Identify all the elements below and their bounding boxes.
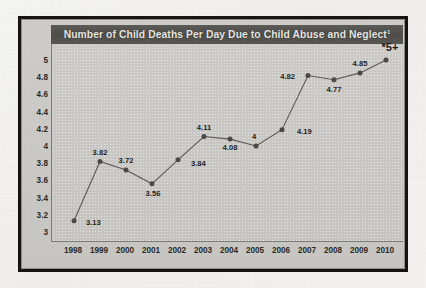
- y-axis-tick-label: 3.4: [37, 193, 48, 202]
- data-point-label: 4.11: [197, 123, 212, 132]
- data-point-marker: [150, 181, 155, 186]
- data-point-marker: [202, 134, 207, 139]
- scanned-page: Number of Child Deaths Per Day Due to Ch…: [0, 0, 426, 288]
- data-point-label: 4.85: [353, 59, 369, 68]
- x-axis-tick-label: 2009: [350, 246, 368, 255]
- x-axis-tick-label: 2002: [168, 246, 186, 255]
- data-point-marker: [254, 144, 259, 149]
- x-axis-tick-label: 2003: [194, 246, 212, 255]
- x-axis-tick-label: 2008: [324, 246, 342, 255]
- data-point-marker: [228, 137, 233, 142]
- chart-title-band: Number of Child Deaths Per Day Due to Ch…: [51, 25, 403, 44]
- title-footnote-marker: 1: [387, 29, 390, 35]
- data-point-label: *5+: [382, 41, 399, 53]
- data-point-marker: [306, 73, 311, 78]
- y-axis-tick-label: 3.2: [37, 210, 48, 219]
- data-point-marker: [124, 168, 129, 173]
- y-axis-tick-label: 3.6: [37, 176, 48, 185]
- data-point-marker: [280, 127, 285, 132]
- data-point-label: 4.77: [327, 85, 342, 94]
- y-axis-tick-label: 4: [43, 142, 48, 151]
- chart-frame: Number of Child Deaths Per Day Due to Ch…: [18, 16, 408, 272]
- data-point-marker: [358, 70, 363, 75]
- data-point-label: 3.72: [119, 156, 134, 165]
- x-axis-tick-label: 1999: [90, 246, 108, 255]
- y-axis-tick-label: 5: [43, 56, 48, 65]
- x-axis-tick-label: 1998: [64, 246, 82, 255]
- data-point-marker: [332, 77, 337, 82]
- x-axis-tick-label: 2004: [220, 246, 238, 255]
- data-point-label: 4.08: [223, 143, 238, 152]
- y-axis-tick-label: 3: [43, 228, 48, 237]
- x-axis-tick-label: 2006: [272, 246, 290, 255]
- x-axis-tick-label: 2005: [246, 246, 264, 255]
- plot-area: 3.133.823.723.563.844.114.0844.194.824.7…: [51, 44, 403, 242]
- data-point-label: 4.19: [297, 127, 312, 136]
- chart-title: Number of Child Deaths Per Day Due to Ch…: [64, 29, 391, 40]
- data-point-label: 3.82: [93, 148, 108, 157]
- y-axis-tick-label: 4.2: [37, 124, 48, 133]
- data-point-label: 3.84: [191, 159, 207, 168]
- line-series: 3.133.823.723.563.844.114.0844.194.824.7…: [52, 44, 404, 242]
- data-point-marker: [176, 157, 181, 162]
- y-axis: 33.23.43.63.844.24.44.64.85: [21, 44, 48, 242]
- x-axis-tick-label: 2001: [142, 246, 160, 255]
- data-point-marker: [72, 218, 77, 223]
- data-point-label: 3.13: [86, 218, 101, 227]
- data-point-marker: [98, 159, 103, 164]
- y-axis-tick-label: 4.8: [37, 73, 48, 82]
- data-point-label: 4: [252, 132, 257, 141]
- data-point-label: 3.56: [146, 189, 161, 198]
- x-axis: 1998199920002001200220032004200520062007…: [51, 246, 403, 260]
- data-point-label: 4.82: [280, 72, 295, 81]
- y-axis-tick-label: 3.8: [37, 159, 48, 168]
- x-axis-tick-label: 2010: [376, 246, 394, 255]
- data-point-marker: [384, 58, 389, 63]
- x-axis-tick-label: 2007: [298, 246, 316, 255]
- x-axis-tick-label: 2000: [116, 246, 134, 255]
- y-axis-tick-label: 4.4: [37, 107, 48, 116]
- y-axis-tick-label: 4.6: [37, 90, 48, 99]
